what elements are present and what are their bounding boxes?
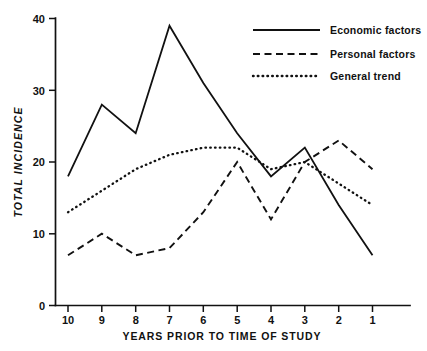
x-tick-label-4: 4 bbox=[268, 314, 275, 326]
series-line-personal-factors bbox=[68, 140, 373, 255]
x-tick-label-1: 1 bbox=[369, 314, 375, 326]
y-tick-labels: 40 30 20 10 0 bbox=[33, 13, 45, 312]
x-tick-label-2: 2 bbox=[336, 314, 342, 326]
x-tick-label-6: 6 bbox=[200, 314, 206, 326]
legend: Economic factors Personal factors Genera… bbox=[253, 24, 421, 82]
y-tick-label-10: 10 bbox=[33, 228, 45, 240]
y-tick-label-20: 20 bbox=[33, 156, 45, 168]
y-tick-label-0: 0 bbox=[39, 300, 45, 312]
y-axis-title: TOTAL INCIDENCE bbox=[12, 106, 24, 217]
x-tick-label-5: 5 bbox=[234, 314, 240, 326]
legend-label-economic-factors: Economic factors bbox=[330, 24, 421, 36]
y-tick-label-30: 30 bbox=[33, 85, 45, 97]
chart-canvas: 40 30 20 10 0 10 9 8 7 6 5 4 bbox=[0, 0, 427, 351]
y-tick-label-40: 40 bbox=[33, 13, 45, 25]
x-tick-labels: 10 9 8 7 6 5 4 3 2 1 bbox=[62, 314, 376, 326]
x-tick-label-8: 8 bbox=[133, 314, 139, 326]
x-tick-label-10: 10 bbox=[62, 314, 74, 326]
legend-label-general-trend: General trend bbox=[330, 70, 401, 82]
legend-label-personal-factors: Personal factors bbox=[330, 48, 415, 60]
axis-group bbox=[56, 18, 411, 306]
series-line-economic-factors bbox=[68, 26, 373, 256]
series-group bbox=[68, 26, 373, 256]
x-axis-title: YEARS PRIOR TO TIME OF STUDY bbox=[123, 330, 322, 342]
chart-figure: 40 30 20 10 0 10 9 8 7 6 5 4 bbox=[0, 0, 427, 351]
x-tick-label-9: 9 bbox=[99, 314, 105, 326]
x-tick-marks bbox=[68, 306, 373, 313]
x-tick-label-7: 7 bbox=[166, 314, 172, 326]
y-tick-marks bbox=[49, 19, 56, 306]
x-tick-label-3: 3 bbox=[302, 314, 308, 326]
series-line-general-trend bbox=[68, 148, 373, 213]
